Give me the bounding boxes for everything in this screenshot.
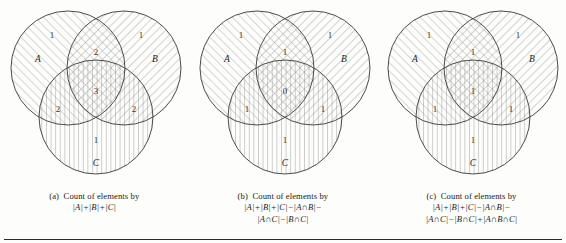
count-b-and-c: 1 xyxy=(320,104,325,114)
count-a-and-b-and-c: 3 xyxy=(94,86,99,96)
set-label-c: C xyxy=(281,158,288,168)
panel-c-caption-line1: (c) Count of elements by xyxy=(377,191,566,202)
count-a-and-c: 1 xyxy=(433,104,438,114)
count-a-and-b: 1 xyxy=(471,47,476,57)
count-a-and-b: 2 xyxy=(94,47,99,57)
count-a-only: 1 xyxy=(427,30,432,40)
count-a-and-c: 2 xyxy=(56,104,61,114)
set-label-a: A xyxy=(411,54,418,64)
count-c-only: 1 xyxy=(94,135,99,145)
count-c-only: 1 xyxy=(471,135,476,145)
set-label-b: B xyxy=(529,54,535,64)
panel-b: 1 1 1 0 1 1 1 A B C (b) Cou xyxy=(189,0,378,234)
venn-svg-b: 1 1 1 0 1 1 1 A B C xyxy=(189,0,378,190)
set-c-fill xyxy=(228,60,342,174)
panel-c-formula: |A|+|B|+|C|−|A∩B|− xyxy=(377,202,566,213)
count-b-and-c: 2 xyxy=(132,104,137,114)
panel-b-label: (b) xyxy=(238,191,248,201)
count-a-and-b: 1 xyxy=(282,47,287,57)
count-b-and-c: 1 xyxy=(509,104,514,114)
count-b-only: 1 xyxy=(139,30,144,40)
panel-c-venn: 1 1 1 1 1 1 1 A B C xyxy=(377,0,566,190)
set-label-a: A xyxy=(223,54,230,64)
panel-c: 1 1 1 1 1 1 1 A B C (c) Cou xyxy=(377,0,566,234)
count-a-and-b-and-c: 0 xyxy=(282,86,287,96)
panel-c-label: (c) xyxy=(426,191,436,201)
panel-b-caption: (b) Count of elements by |A|+|B|+|C|−|A∩… xyxy=(189,190,378,225)
panel-a-label: (a) xyxy=(49,191,59,201)
set-label-c: C xyxy=(93,158,100,168)
count-a-only: 1 xyxy=(238,30,243,40)
panel-c-formula-2: |A∩C|−|B∩C|+|A∩B∩C| xyxy=(377,214,566,225)
panel-b-formula: |A|+|B|+|C|−|A∩B|− xyxy=(189,202,378,213)
set-c-fill xyxy=(39,60,153,174)
count-b-only: 1 xyxy=(327,30,332,40)
venn-svg-c: 1 1 1 1 1 1 1 A B C xyxy=(377,0,566,190)
venn-svg-a: 1 1 2 3 2 2 1 A B C xyxy=(0,0,189,190)
set-label-a: A xyxy=(34,54,41,64)
panel-b-venn: 1 1 1 0 1 1 1 A B C xyxy=(189,0,378,190)
panel-c-caption: (c) Count of elements by |A|+|B|+|C|−|A∩… xyxy=(377,190,566,225)
panel-a-caption-line1: (a) Count of elements by xyxy=(0,191,189,202)
panel-a-caption-text: Count of elements by xyxy=(64,191,140,201)
panel-c-caption-text: Count of elements by xyxy=(441,191,517,201)
count-b-only: 1 xyxy=(516,30,521,40)
set-label-b: B xyxy=(341,54,347,64)
panel-row: 1 1 2 3 2 2 1 A B C (a) Cou xyxy=(0,0,566,234)
set-label-b: B xyxy=(152,54,158,64)
count-a-and-b-and-c: 1 xyxy=(471,86,476,96)
panel-b-caption-line1: (b) Count of elements by xyxy=(189,191,378,202)
panel-a: 1 1 2 3 2 2 1 A B C (a) Cou xyxy=(0,0,189,234)
venn-diagram-figure: 1 1 2 3 2 2 1 A B C (a) Cou xyxy=(0,0,566,243)
panel-b-formula-2: |A∩C|−|B∩C| xyxy=(189,214,378,225)
count-c-only: 1 xyxy=(282,135,287,145)
panel-a-venn: 1 1 2 3 2 2 1 A B C xyxy=(0,0,189,190)
count-a-and-c: 1 xyxy=(244,104,249,114)
bottom-divider xyxy=(4,239,562,240)
panel-a-caption: (a) Count of elements by |A|+|B|+|C| xyxy=(0,190,189,214)
count-a-only: 1 xyxy=(50,30,55,40)
panel-b-caption-text: Count of elements by xyxy=(252,191,328,201)
set-c-fill xyxy=(416,60,530,174)
panel-a-formula: |A|+|B|+|C| xyxy=(0,202,189,213)
set-label-c: C xyxy=(470,158,477,168)
